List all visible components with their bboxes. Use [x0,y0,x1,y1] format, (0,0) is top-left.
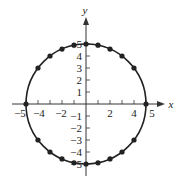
x-tick-label: −2 [55,107,67,119]
y-tick-label: 3 [77,62,83,74]
circle-plot: −5−4−224554321−1−2−3−4−5xy [0,0,179,184]
data-point [131,65,136,70]
data-point [83,41,88,46]
data-point [83,161,88,166]
data-point [59,156,64,161]
data-point [47,149,52,154]
x-tick-label: 2 [107,107,113,119]
y-tick-label: 4 [77,50,83,62]
y-tick-label: −1 [70,110,82,122]
x-axis-label: x [168,98,174,110]
data-point [143,101,148,106]
y-tick-label: 5 [77,38,83,50]
data-point [23,101,28,106]
data-point [35,65,40,70]
x-axis-arrow-icon [157,101,165,107]
data-point [119,149,124,154]
y-tick-label: −3 [70,134,82,146]
axis-labels: −5−4−224554321−1−2−3−4−5xy [14,4,173,170]
data-point [119,53,124,58]
y-tick-label: −4 [70,146,82,158]
data-point [35,137,40,142]
x-tick-label: 4 [131,107,137,119]
data-point [59,46,64,51]
y-tick-label: −5 [70,158,82,170]
y-tick-label: 2 [77,74,83,86]
y-axis-label: y [82,4,88,16]
x-tick-label: −5 [14,107,26,119]
data-point [95,43,100,48]
data-point [131,137,136,142]
y-tick-label: 1 [77,86,83,98]
data-point [95,160,100,165]
y-axis-arrow-icon [83,17,89,25]
x-tick-label: −4 [33,107,45,119]
data-point [47,53,52,58]
axes [12,17,165,176]
x-tick-label: 5 [149,107,155,119]
y-tick-label: −2 [70,122,82,134]
data-point [107,46,112,51]
data-point [107,156,112,161]
